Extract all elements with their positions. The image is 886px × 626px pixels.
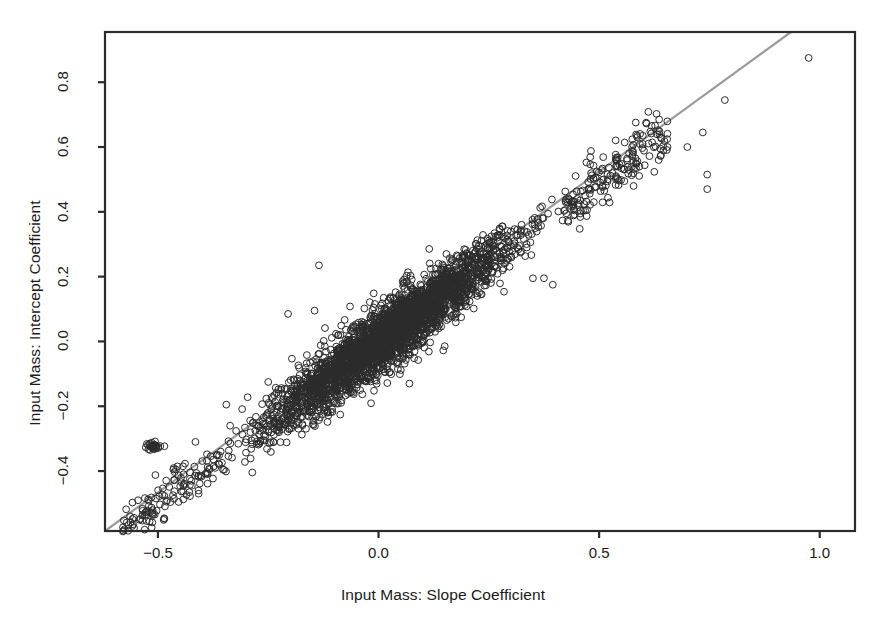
y-tick-label: −0.2 bbox=[54, 376, 71, 436]
y-axis-title: Input Mass: Intercept Coefficient bbox=[26, 63, 44, 563]
y-tick-label: 0.0 bbox=[54, 311, 71, 371]
x-tick-label: 1.0 bbox=[790, 544, 850, 561]
data-points-layer bbox=[120, 55, 813, 535]
y-tick-label: −0.4 bbox=[54, 441, 71, 501]
x-tick-label: 0.0 bbox=[349, 544, 409, 561]
x-axis-title: Input Mass: Slope Coefficient bbox=[0, 586, 886, 604]
scatter-plot-figure: Input Mass: Slope Coefficient Input Mass… bbox=[0, 0, 886, 626]
plot-canvas bbox=[0, 0, 886, 626]
y-tick-label: 0.4 bbox=[54, 181, 71, 241]
y-tick-label: 0.2 bbox=[54, 246, 71, 306]
x-tick-label: 0.5 bbox=[569, 544, 629, 561]
y-tick-label: 0.8 bbox=[54, 52, 71, 112]
x-tick-label: −0.5 bbox=[128, 544, 188, 561]
y-tick-label: 0.6 bbox=[54, 117, 71, 177]
